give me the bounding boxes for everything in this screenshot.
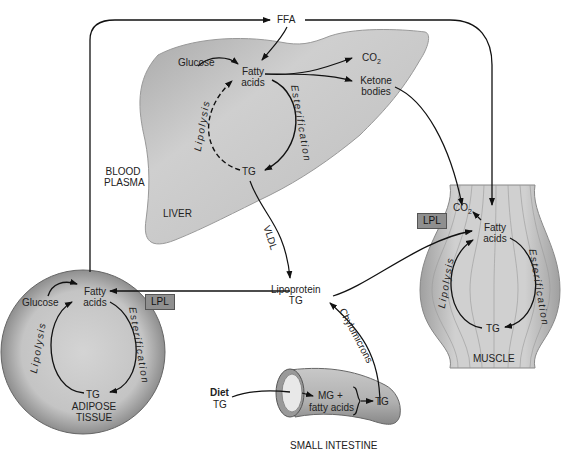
adipose-fatty-acids-label: Fatty acids <box>80 286 110 308</box>
adipose-glucose-label: Glucose <box>22 297 59 308</box>
diet-tg-label: TG <box>213 399 227 410</box>
liver-tg-label: TG <box>242 166 256 177</box>
muscle-fatty-acids-label: Fatty acids <box>480 222 510 244</box>
ketone-bodies-label: Ketone bodies <box>358 75 394 97</box>
muscle-co2-label: CO2 <box>453 202 472 217</box>
liver-fatty-acids-label: Fatty acids <box>238 66 268 88</box>
liver-label: LIVER <box>163 208 192 219</box>
liver-co2-label: CO2 <box>362 52 381 67</box>
small-intestine-label: SMALL INTESTINE <box>290 440 377 451</box>
muscle-lpl-badge: LPL <box>417 213 447 229</box>
liver-glucose-label: Glucose <box>178 57 215 68</box>
lipoprotein-tg-label: LipoproteinTG <box>271 284 320 306</box>
blood-plasma-label: BLOOD PLASMA <box>104 166 142 188</box>
diet-label: Diet <box>210 387 229 398</box>
intestine-tg-label: TG <box>375 396 389 407</box>
adipose-lpl-badge: LPL <box>145 294 175 310</box>
ffa-label: FFA <box>277 14 295 25</box>
adipose-tissue-label: ADIPOSE TISSUE <box>70 401 118 423</box>
adipose-tg-label: TG <box>86 389 100 400</box>
muscle-label: MUSCLE <box>473 353 515 364</box>
intestine-fatty-acids-label: fatty acids <box>309 402 354 413</box>
muscle-tg-label: TG <box>486 323 500 334</box>
mg-label: MG + <box>318 390 343 401</box>
